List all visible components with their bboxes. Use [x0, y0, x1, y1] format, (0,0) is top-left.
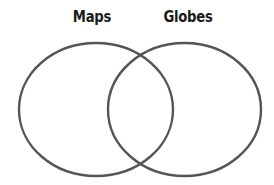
set-ellipse-maps: [19, 43, 173, 176]
set-ellipse-globes: [108, 43, 261, 176]
venn-diagram: Maps Globes: [0, 0, 274, 185]
venn-circles: [0, 0, 274, 185]
